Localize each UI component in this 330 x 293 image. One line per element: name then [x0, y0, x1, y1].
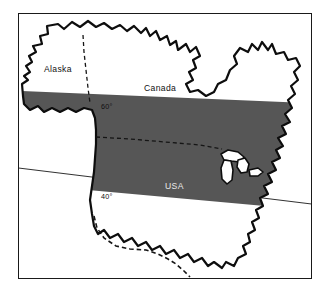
label-latitude-40: 40°	[101, 192, 112, 201]
label-alaska: Alaska	[44, 64, 72, 74]
map-canvas: Alaska Canada USA 60° 40°	[0, 0, 330, 293]
map-figure: Alaska Canada USA 60° 40°	[0, 0, 330, 293]
label-latitude-60: 60°	[101, 102, 112, 111]
lake-huron	[237, 158, 249, 173]
label-canada: Canada	[144, 83, 176, 93]
lake-michigan	[221, 160, 233, 184]
label-usa: USA	[165, 181, 184, 191]
